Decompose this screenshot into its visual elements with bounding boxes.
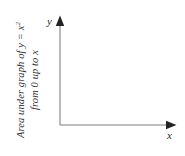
axes-group <box>0 0 185 156</box>
figure-canvas: y x Area under graph of y = x2 from 0 up… <box>0 0 185 156</box>
y-axis-label: y <box>47 16 52 27</box>
x-axis-label: x <box>167 130 172 141</box>
y-axis-arrowhead-icon <box>56 16 64 27</box>
x-axis-arrowhead-icon <box>166 121 177 130</box>
